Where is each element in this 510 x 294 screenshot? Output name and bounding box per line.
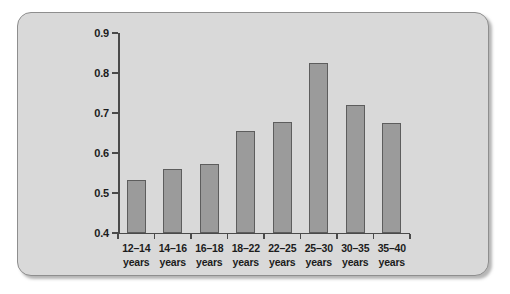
y-axis-tick-label: 0.4 [94,227,109,239]
x-axis-label: 30–35years [337,241,374,269]
x-axis-label: 14–16years [155,241,192,269]
x-axis-label-range: 16–18 [191,241,228,255]
x-axis-label: 22–25years [264,241,301,269]
x-axis-tick [409,234,411,239]
x-axis-label-range: 12–14 [118,241,155,255]
bar [382,123,401,233]
x-axis-tick [227,234,229,239]
x-axis-tick [336,234,338,239]
x-axis-label: 16–18years [191,241,228,269]
y-axis-tick [112,112,118,114]
x-axis-label-unit: years [337,255,374,269]
bar [346,105,365,233]
x-axis-label: 35–40years [374,241,411,269]
x-axis-label-range: 35–40 [374,241,411,255]
x-axis-tick [117,234,119,239]
x-axis-tick [154,234,156,239]
y-axis-tick [112,192,118,194]
x-axis-label-range: 30–35 [337,241,374,255]
y-axis-tick-label: 0.8 [94,67,109,79]
bar [200,164,219,233]
y-axis-tick [112,72,118,74]
x-axis-label: 25–30years [301,241,338,269]
plot-area: 0.90.80.70.60.50.4 12–14years14–16years1… [0,0,510,294]
x-axis-label: 12–14years [118,241,155,269]
x-axis-label-unit: years [374,255,411,269]
x-axis-tick [373,234,375,239]
x-axis-label-range: 14–16 [155,241,192,255]
x-axis-tick [263,234,265,239]
x-axis-label-unit: years [264,255,301,269]
y-axis-line [118,33,120,234]
x-axis-label-range: 18–22 [228,241,265,255]
figure-container: 0.90.80.70.60.50.4 12–14years14–16years1… [0,0,510,294]
x-axis-label-unit: years [118,255,155,269]
y-axis-tick-label: 0.9 [94,27,109,39]
x-axis-tick [300,234,302,239]
y-axis-tick-label: 0.6 [94,147,109,159]
y-axis-tick-label: 0.5 [94,187,109,199]
x-axis-label-unit: years [191,255,228,269]
y-axis-tick [112,32,118,34]
bar [236,131,255,233]
bar [309,63,328,233]
y-axis-tick [112,152,118,154]
x-axis-tick [190,234,192,239]
y-axis-tick-label: 0.7 [94,107,109,119]
x-axis-label-unit: years [228,255,265,269]
x-axis-label-unit: years [301,255,338,269]
x-axis-label-range: 22–25 [264,241,301,255]
bar [163,169,182,233]
x-axis-label-range: 25–30 [301,241,338,255]
x-axis-label: 18–22years [228,241,265,269]
bar [127,180,146,233]
x-axis-label-unit: years [155,255,192,269]
bar [273,122,292,233]
